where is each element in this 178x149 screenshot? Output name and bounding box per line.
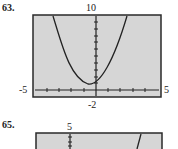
graph-65: [0, 0, 178, 149]
